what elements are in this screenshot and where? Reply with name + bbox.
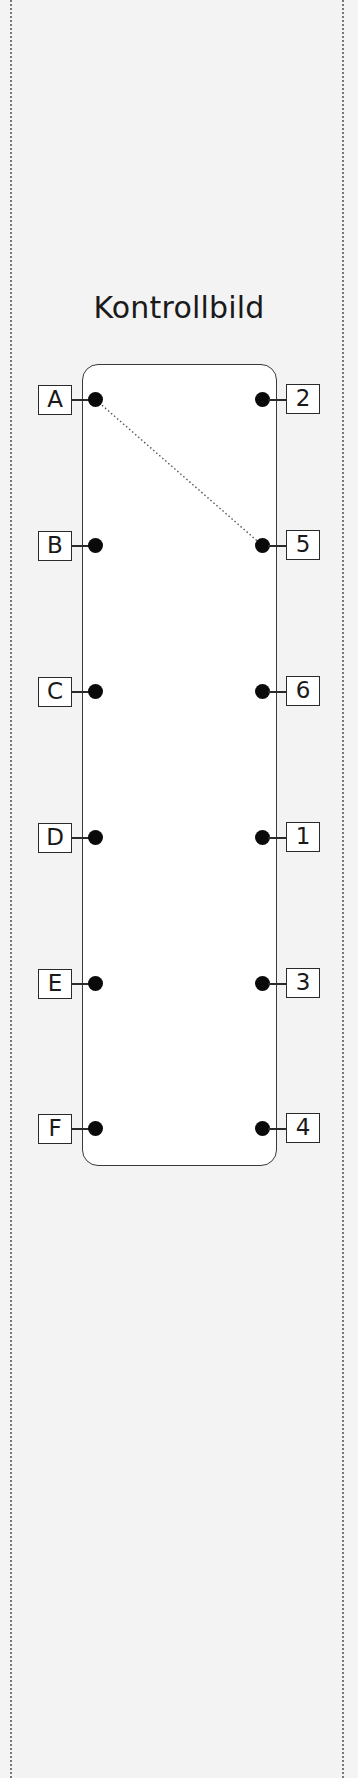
- terminal-wire: [268, 983, 286, 985]
- terminal-label-box: 2: [286, 384, 320, 414]
- terminal-label-box: C: [38, 677, 72, 707]
- terminal-label-box: E: [38, 969, 72, 999]
- terminal-wire: [268, 1128, 286, 1130]
- terminal-wire: [268, 545, 286, 547]
- connection-point[interactable]: [88, 1121, 103, 1136]
- terminal-label-box: 1: [286, 822, 320, 852]
- terminal-wire: [268, 691, 286, 693]
- terminal-label-box: 4: [286, 1113, 320, 1143]
- terminal-label-box: 6: [286, 676, 320, 706]
- connection-point[interactable]: [88, 392, 103, 407]
- connection-point[interactable]: [88, 538, 103, 553]
- terminal-label-box: 3: [286, 968, 320, 998]
- connection-a-5: [96, 400, 263, 546]
- connection-point[interactable]: [88, 830, 103, 845]
- terminal-wire: [268, 837, 286, 839]
- terminal-label-box: A: [38, 385, 72, 415]
- terminal-wire: [268, 399, 286, 401]
- terminal-label-box: D: [38, 823, 72, 853]
- connection-point[interactable]: [88, 976, 103, 991]
- connection-point[interactable]: [88, 684, 103, 699]
- terminal-label-box: F: [38, 1114, 72, 1144]
- connection-layer: [0, 0, 358, 1778]
- terminal-label-box: B: [38, 531, 72, 561]
- terminal-label-box: 5: [286, 530, 320, 560]
